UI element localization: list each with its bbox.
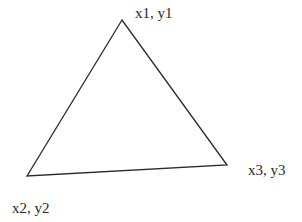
triangle-shape (0, 0, 302, 222)
vertex-2-label: x2, y2 (12, 201, 50, 216)
triangle-diagram: x1, y1 x2, y2 x3, y3 (0, 0, 302, 222)
triangle-outline (27, 20, 227, 176)
vertex-3-label: x3, y3 (248, 163, 286, 178)
vertex-1-label: x1, y1 (135, 6, 173, 21)
